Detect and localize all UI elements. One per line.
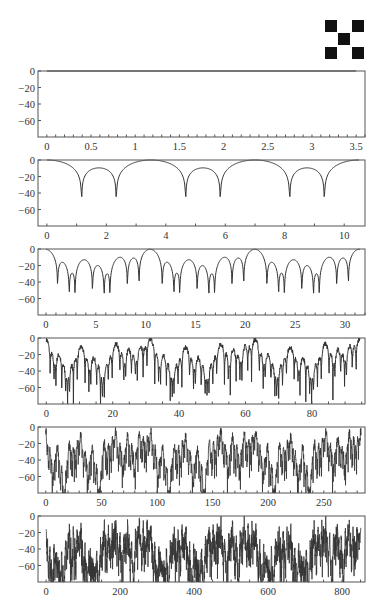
y-tick-label: 0 (30, 155, 35, 166)
x-tick-label: 2.5 (261, 141, 274, 152)
x-tick-label: 2 (104, 230, 109, 241)
x-tick-label: 3 (309, 141, 314, 152)
y-tick-label: −40 (19, 188, 35, 199)
x-tick-label: 20 (107, 408, 118, 419)
y-tick-label: 0 (30, 333, 35, 344)
x-tick-label: 60 (240, 408, 251, 419)
x-tick-label: 600 (260, 586, 276, 597)
y-tick-label: −40 (19, 455, 35, 466)
x-tick-label: 0 (43, 319, 48, 330)
y-tick-label: 0 (30, 244, 35, 255)
data-series-line (46, 338, 360, 404)
x-tick-label: 3.5 (350, 141, 363, 152)
x-tick-label: 15 (190, 319, 201, 330)
x-tick-label: 1 (133, 141, 138, 152)
data-series-line (46, 249, 360, 293)
y-tick-label: −40 (19, 99, 35, 110)
x-tick-label: 0 (44, 586, 49, 597)
x-tick-label: 0 (44, 141, 49, 152)
y-tick-label: 0 (30, 422, 35, 433)
data-series-line (47, 160, 359, 197)
x-tick-label: 800 (334, 586, 350, 597)
y-tick-label: −60 (19, 472, 35, 483)
x-tick-label: 5 (93, 319, 98, 330)
y-tick-label: −20 (19, 350, 35, 361)
data-series-line (46, 516, 361, 582)
y-tick-label: −20 (19, 439, 35, 450)
y-tick-label: −40 (19, 366, 35, 377)
y-tick-label: −60 (19, 294, 35, 305)
x-tick-label: 20 (240, 319, 251, 330)
x-tick-label: 10 (339, 230, 350, 241)
x-tick-label: 8 (282, 230, 287, 241)
y-tick-label: −60 (19, 116, 35, 127)
x-tick-label: 200 (260, 497, 276, 508)
x-tick-label: 200 (112, 586, 128, 597)
plot-frame (38, 249, 365, 315)
x-tick-label: 4 (163, 230, 169, 241)
y-tick-label: −40 (19, 544, 35, 555)
x-tick-label: 10 (140, 319, 151, 330)
x-tick-label: 1.5 (173, 141, 186, 152)
checker-x-icon (325, 20, 364, 59)
x-tick-label: 0 (43, 497, 48, 508)
x-tick-label: 6 (223, 230, 228, 241)
y-tick-label: −20 (19, 261, 35, 272)
y-tick-label: −60 (19, 383, 35, 394)
x-tick-label: 40 (174, 408, 185, 419)
x-tick-label: 25 (290, 319, 301, 330)
x-tick-label: 150 (205, 497, 221, 508)
y-tick-label: 0 (30, 66, 35, 77)
x-tick-label: 250 (316, 497, 332, 508)
y-tick-label: −20 (19, 528, 35, 539)
x-tick-label: 80 (307, 408, 318, 419)
x-tick-label: 400 (186, 586, 202, 597)
x-tick-label: 2 (221, 141, 226, 152)
y-tick-label: 0 (30, 511, 35, 522)
y-tick-label: −40 (19, 277, 35, 288)
x-tick-label: 100 (149, 497, 165, 508)
data-series-line (46, 427, 361, 493)
y-tick-label: −60 (19, 205, 35, 216)
y-tick-label: −20 (19, 83, 35, 94)
x-tick-label: 0 (44, 408, 49, 419)
x-tick-label: 0.5 (84, 141, 97, 152)
y-tick-label: −20 (19, 172, 35, 183)
y-tick-label: −60 (19, 561, 35, 572)
x-tick-label: 50 (96, 497, 107, 508)
plot-frame (38, 71, 365, 137)
x-tick-label: 30 (340, 319, 351, 330)
x-tick-label: 0 (44, 230, 49, 241)
